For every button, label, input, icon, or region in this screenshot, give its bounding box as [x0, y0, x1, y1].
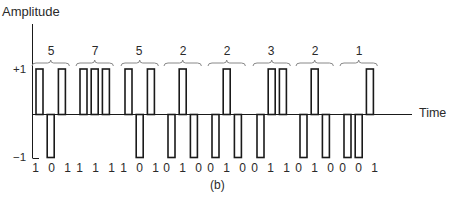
negative-pulse: [190, 115, 197, 158]
group-bits-4: 0 1 0: [163, 162, 205, 174]
group-brace: [208, 60, 245, 66]
negative-pulse: [344, 115, 351, 158]
group-value-4: 2: [180, 45, 187, 57]
negative-pulse: [168, 115, 175, 158]
group-brace: [296, 60, 333, 66]
negative-pulse: [257, 115, 264, 158]
negative-pulse: [136, 115, 143, 158]
group-brace: [32, 60, 69, 66]
y-tick-label-plus-one: +1: [13, 64, 26, 76]
positive-pulse: [125, 69, 132, 115]
positive-pulse: [102, 69, 109, 115]
positive-pulse: [311, 69, 318, 115]
group-value-7: 2: [312, 45, 319, 57]
positive-pulse: [36, 69, 43, 115]
positive-pulse: [366, 69, 373, 115]
negative-pulse: [322, 115, 329, 158]
pulse-train: [36, 69, 373, 158]
positive-pulse: [147, 69, 154, 115]
positive-pulse: [179, 69, 186, 115]
group-bits-1: 1 0 1: [32, 162, 74, 174]
group-value-8: 1: [356, 45, 363, 57]
pcm-waveform-diagram: Amplitude Time +1 −1 5 7 5 2 2 3 2 1 1 0…: [0, 0, 451, 199]
figure-caption: (b): [210, 179, 225, 191]
y-tick-label-minus-one: −1: [13, 152, 26, 164]
group-brace: [253, 60, 290, 66]
negative-pulse: [212, 115, 219, 158]
group-bits-8: 0 0 1: [339, 162, 381, 174]
negative-pulse: [234, 115, 241, 158]
positive-pulse: [223, 69, 230, 115]
group-brace: [164, 60, 201, 66]
group-value-2: 7: [92, 45, 99, 57]
y-axis-label: Amplitude: [2, 5, 60, 18]
positive-pulse: [279, 69, 286, 115]
group-braces: [32, 60, 377, 66]
group-bits-5: 0 1 0: [207, 162, 249, 174]
group-brace: [121, 60, 158, 66]
negative-pulse: [355, 115, 362, 158]
x-axis-label: Time: [419, 107, 446, 120]
negative-pulse: [300, 115, 307, 158]
group-bits-7: 0 1 0: [295, 162, 337, 174]
group-value-5: 2: [224, 45, 231, 57]
group-brace: [76, 60, 113, 66]
group-value-1: 5: [48, 45, 55, 57]
group-bits-3: 1 0 1: [120, 162, 162, 174]
group-bits-2: 1 1 1: [76, 162, 118, 174]
group-brace: [340, 60, 377, 66]
group-value-3: 5: [136, 45, 143, 57]
negative-pulse: [47, 115, 54, 158]
positive-pulse: [268, 69, 275, 115]
group-bits-6: 0 1 1: [251, 162, 293, 174]
positive-pulse: [58, 69, 65, 115]
group-value-6: 3: [268, 45, 275, 57]
positive-pulse: [91, 69, 98, 115]
positive-pulse: [80, 69, 87, 115]
